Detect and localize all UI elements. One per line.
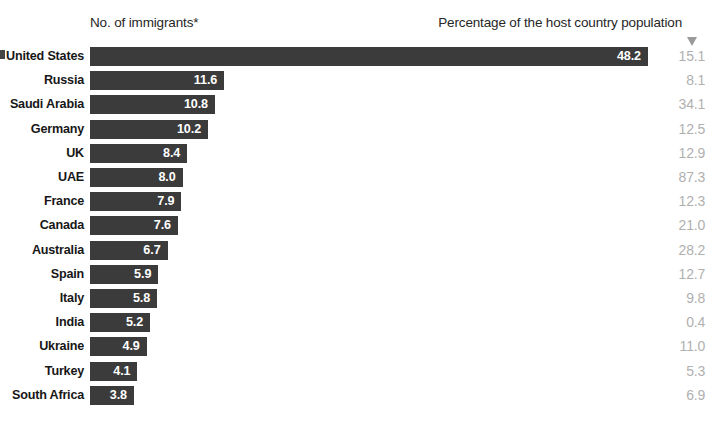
category-label: UK — [0, 144, 84, 163]
chart-row: South Africa3.86.9 — [0, 386, 725, 405]
arrow-down-icon — [683, 21, 701, 46]
chart-row: Spain5.912.7 — [0, 265, 725, 284]
category-label: Spain — [0, 265, 84, 284]
chart-row: France7.912.3 — [0, 192, 725, 211]
chart-row: Russia11.68.1 — [0, 71, 725, 90]
bar-value-label: 4.9 — [123, 337, 140, 356]
percentage-value: 12.7 — [655, 265, 705, 284]
bar: 8.0 — [90, 168, 183, 187]
chart-header: No. of immigrants* Percentage of the hos… — [0, 0, 725, 45]
category-label: Canada — [0, 216, 84, 235]
category-label: Italy — [0, 289, 84, 308]
percentage-value: 0.4 — [655, 313, 705, 332]
bar: 7.9 — [90, 192, 181, 211]
bar-value-label: 10.8 — [184, 95, 208, 114]
bar: 5.9 — [90, 265, 158, 284]
bar-value-label: 8.4 — [163, 144, 180, 163]
category-label: Germany — [0, 120, 84, 139]
percentage-value: 8.1 — [655, 71, 705, 90]
percentage-value: 5.3 — [655, 362, 705, 381]
chart-row: India5.20.4 — [0, 313, 725, 332]
bar: 7.6 — [90, 216, 178, 235]
category-label: Russia — [0, 71, 84, 90]
bar: 3.8 — [90, 386, 134, 405]
chart-row: UK8.412.9 — [0, 144, 725, 163]
bar-value-label: 7.6 — [154, 216, 171, 235]
percentage-value: 15.1 — [655, 47, 705, 66]
percentage-value: 12.3 — [655, 192, 705, 211]
percentage-value: 34.1 — [655, 95, 705, 114]
bar-chart-plot: United States48.215.1Russia11.68.1Saudi … — [0, 45, 725, 428]
percentage-value: 6.9 — [655, 386, 705, 405]
bar-value-label: 3.8 — [110, 386, 127, 405]
chart-row: Ukraine4.911.0 — [0, 337, 725, 356]
bar-value-label: 5.8 — [133, 289, 150, 308]
chart-row: Italy5.89.8 — [0, 289, 725, 308]
bar: 48.2 — [90, 47, 648, 66]
percentage-value: 9.8 — [655, 289, 705, 308]
bar: 10.8 — [90, 95, 215, 114]
percentage-value: 28.2 — [655, 241, 705, 260]
chart-row: Canada7.621.0 — [0, 216, 725, 235]
category-label: France — [0, 192, 84, 211]
bar-value-label: 10.2 — [177, 120, 201, 139]
bar-value-label: 11.6 — [194, 71, 217, 90]
bar-value-label: 5.9 — [134, 265, 151, 284]
bar: 5.2 — [90, 313, 150, 332]
bar: 4.1 — [90, 362, 137, 381]
immigrants-column-header: No. of immigrants* — [90, 15, 198, 30]
chart-row: Germany10.212.5 — [0, 120, 725, 139]
chart-row: Turkey4.15.3 — [0, 362, 725, 381]
category-label: India — [0, 313, 84, 332]
bar: 5.8 — [90, 289, 157, 308]
bar: 8.4 — [90, 144, 187, 163]
percentage-value: 12.9 — [655, 144, 705, 163]
bar-value-label: 5.2 — [126, 313, 143, 332]
category-label: Turkey — [0, 362, 84, 381]
bar: 4.9 — [90, 337, 147, 356]
bar: 6.7 — [90, 241, 168, 260]
category-label: Ukraine — [0, 337, 84, 356]
percentage-value: 87.3 — [655, 168, 705, 187]
percentage-value: 12.5 — [655, 120, 705, 139]
bar: 11.6 — [90, 71, 224, 90]
chart-row: Australia6.728.2 — [0, 241, 725, 260]
chart-row: Saudi Arabia10.834.1 — [0, 95, 725, 114]
bar-value-label: 6.7 — [143, 241, 160, 260]
category-label: United States — [0, 47, 84, 66]
bar: 10.2 — [90, 120, 208, 139]
chart-row: UAE8.087.3 — [0, 168, 725, 187]
category-label: UAE — [0, 168, 84, 187]
category-label: South Africa — [0, 386, 84, 405]
percentage-value: 11.0 — [655, 337, 705, 356]
percentage-column-header: Percentage of the host country populatio… — [438, 15, 682, 30]
bar-value-label: 8.0 — [158, 168, 175, 187]
bar-value-label: 7.9 — [157, 192, 174, 211]
chart-row: United States48.215.1 — [0, 47, 725, 66]
percentage-value: 21.0 — [655, 216, 705, 235]
bar-value-label: 48.2 — [617, 47, 641, 66]
category-label: Australia — [0, 241, 84, 260]
bar-value-label: 4.1 — [113, 362, 130, 381]
category-label: Saudi Arabia — [0, 95, 84, 114]
